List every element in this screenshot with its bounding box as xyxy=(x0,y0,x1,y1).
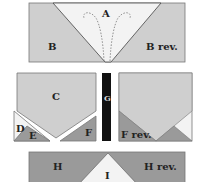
piece-g xyxy=(102,73,111,141)
label-i: I xyxy=(105,170,110,181)
label-f: F xyxy=(85,127,92,138)
label-e: E xyxy=(29,130,37,141)
piecing-diagram: A B B rev. C D E F G F rev. H H rev. I xyxy=(0,0,203,182)
label-c: C xyxy=(52,91,60,102)
label-h: H xyxy=(53,161,62,172)
label-g: G xyxy=(104,93,111,103)
bottom-unit: H H rev. I xyxy=(29,152,185,182)
strip-g: G xyxy=(102,73,111,141)
middle-left-unit: C D E F xyxy=(14,73,96,141)
label-b-rev: B rev. xyxy=(146,41,178,52)
label-f-rev: F rev. xyxy=(121,129,152,140)
label-b: B xyxy=(48,41,56,52)
top-unit: A B B rev. xyxy=(29,3,185,62)
middle-right-unit: F rev. xyxy=(119,73,192,141)
label-d: D xyxy=(16,123,25,134)
label-h-rev: H rev. xyxy=(144,161,177,172)
label-a: A xyxy=(101,8,110,19)
